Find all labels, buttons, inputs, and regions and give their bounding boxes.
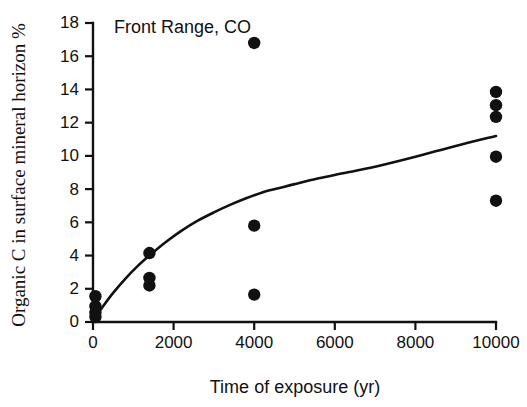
data-point xyxy=(490,151,502,163)
data-point xyxy=(248,288,260,300)
scatter-plot-chart: 024681012141618 0200040006000800010000 F… xyxy=(0,0,527,407)
panel-title: Front Range, CO xyxy=(114,17,251,37)
x-axis-tick-label: 6000 xyxy=(316,333,354,352)
y-axis-tick-label: 6 xyxy=(70,213,79,232)
data-point xyxy=(89,311,101,323)
x-axis-tick-label: 0 xyxy=(88,333,97,352)
y-axis-tick-label: 10 xyxy=(60,146,79,165)
y-axis-tick-label: 0 xyxy=(70,312,79,331)
data-point xyxy=(248,37,260,49)
y-axis-tick-label: 2 xyxy=(70,279,79,298)
x-axis-title: Time of exposure (yr) xyxy=(210,377,380,397)
x-axis-tick-label: 4000 xyxy=(235,333,273,352)
figure-panel: 024681012141618 0200040006000800010000 F… xyxy=(0,0,527,407)
y-axis-title: Organic C in surface mineral horizon % xyxy=(8,23,29,327)
data-point xyxy=(490,195,502,207)
x-axis-tick-label: 2000 xyxy=(155,333,193,352)
x-axis-tick-label: 10000 xyxy=(472,333,519,352)
y-axis-tick-label: 18 xyxy=(60,13,79,32)
y-axis-tick-label: 12 xyxy=(60,113,79,132)
y-axis-tick-label: 4 xyxy=(70,246,79,265)
y-axis-tick-label: 14 xyxy=(60,80,79,99)
data-point xyxy=(143,247,155,259)
y-axis-tick-label: 16 xyxy=(60,47,79,66)
data-point xyxy=(143,279,155,291)
y-axis-tick-label: 8 xyxy=(70,180,79,199)
data-point xyxy=(490,111,502,123)
data-point xyxy=(248,219,260,231)
data-point xyxy=(490,86,502,98)
x-axis-tick-label: 8000 xyxy=(396,333,434,352)
data-point xyxy=(490,99,502,111)
